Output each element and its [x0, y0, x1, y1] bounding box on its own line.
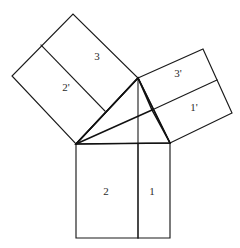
geometry-diagram: 2 1 2' 3 3' 1': [0, 0, 240, 248]
label-region-2: 2: [103, 185, 109, 197]
label-region-3-prime: 3': [174, 67, 182, 79]
label-region-2-prime: 2': [62, 81, 70, 93]
figure-root: 2 1 2' 3 3' 1': [0, 0, 240, 248]
label-region-1-prime: 1': [190, 101, 198, 113]
label-region-3: 3: [94, 50, 100, 62]
bottom-square: [76, 143, 170, 238]
label-region-1: 1: [149, 185, 155, 197]
